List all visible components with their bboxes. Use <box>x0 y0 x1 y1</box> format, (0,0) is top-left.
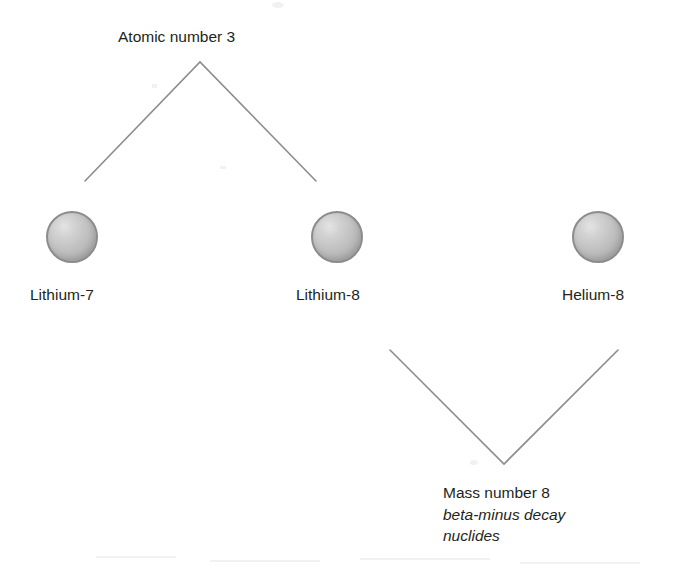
node-label-helium-8: Helium-8 <box>562 286 624 304</box>
mass-number-bracket-icon <box>390 350 618 464</box>
atomic-number-group-label: Atomic number 3 <box>118 28 235 46</box>
nuclide-sphere-icon <box>46 211 98 263</box>
node-label-lithium-8: Lithium-8 <box>296 286 360 304</box>
mass-number-line-3: nuclides <box>443 525 565 547</box>
mass-number-line-2: beta-minus decay <box>443 504 565 526</box>
node-label-lithium-7: Lithium-7 <box>30 286 94 304</box>
diagram-canvas: Atomic number 3 Lithium-7 Lithium-8 Heli… <box>0 0 673 579</box>
nuclide-sphere-icon <box>572 211 624 263</box>
mass-number-group-label: Mass number 8 beta-minus decay nuclides <box>443 482 565 547</box>
nuclide-sphere-icon <box>311 211 363 263</box>
atomic-number-bracket-icon <box>85 62 316 181</box>
mass-number-line-1: Mass number 8 <box>443 482 565 504</box>
